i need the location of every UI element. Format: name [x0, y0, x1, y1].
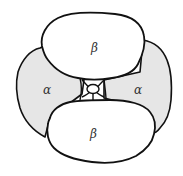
beta-bottom-subunit [47, 100, 155, 163]
beta-top-label: β [90, 41, 98, 55]
subunit-diagram: β β α α [0, 0, 183, 176]
alpha-right-label: α [134, 83, 142, 97]
beta-bottom-label: β [89, 127, 97, 141]
alpha-left-label: α [43, 83, 51, 97]
